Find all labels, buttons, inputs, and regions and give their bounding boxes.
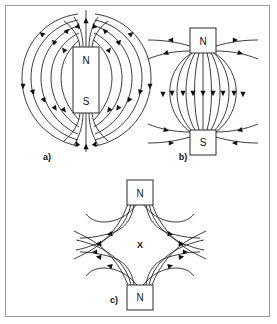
magnet-a-south-label: S	[83, 96, 90, 107]
arrow-a	[52, 105, 59, 112]
field-line-a	[95, 26, 132, 134]
magnet-b-north-label: N	[199, 36, 206, 47]
field-line-b	[148, 124, 190, 132]
arrow-b	[240, 92, 245, 97]
magnet-c-top-north-label: N	[136, 188, 143, 199]
arrow-b	[162, 50, 169, 56]
field-line-c	[152, 204, 206, 259]
magnet-b-south-label: S	[200, 137, 207, 148]
arrow-b	[160, 92, 165, 97]
magnet-c-bottom-north-label: N	[136, 292, 143, 303]
panel-a: N S	[20, 10, 152, 162]
field-line-c	[74, 204, 128, 259]
arrow-b	[237, 50, 244, 56]
panel-b-label: b)	[179, 152, 188, 162]
field-line-b	[148, 40, 190, 46]
arrow-a	[20, 84, 25, 89]
field-line-a	[89, 113, 98, 145]
panel-c-label: c)	[110, 295, 118, 305]
arrow-c	[95, 254, 101, 260]
field-line-b	[216, 124, 258, 132]
field-line-b	[216, 40, 258, 46]
arrow-a	[114, 105, 121, 112]
arrow-c	[183, 249, 188, 254]
panel-a-label: a)	[43, 152, 51, 162]
magnetic-field-figure: N S	[0, 0, 277, 324]
arrow-b	[220, 91, 225, 96]
arrow-a	[64, 27, 71, 34]
field-line-b	[148, 51, 190, 59]
field-line-b	[216, 51, 258, 59]
arrow-a	[147, 84, 152, 89]
arrow-c	[178, 254, 184, 260]
field-line-a	[41, 26, 78, 134]
magnet-a-north-label: N	[82, 55, 89, 66]
arrow-a	[61, 107, 68, 114]
panel-b: N S b)	[148, 28, 258, 162]
arrow-a	[105, 107, 112, 114]
arrow-c	[92, 249, 97, 254]
field-line-a	[74, 113, 83, 145]
arrow-b	[200, 91, 205, 96]
arrow-a	[83, 18, 88, 23]
panel-c: N N X c)	[74, 180, 206, 310]
arrow-a	[83, 144, 88, 149]
arrow-b	[180, 91, 185, 96]
arrow-a	[101, 27, 108, 34]
neutral-point-label: X	[137, 240, 143, 250]
figure-canvas: N S	[0, 0, 277, 324]
field-line-a	[74, 17, 83, 47]
